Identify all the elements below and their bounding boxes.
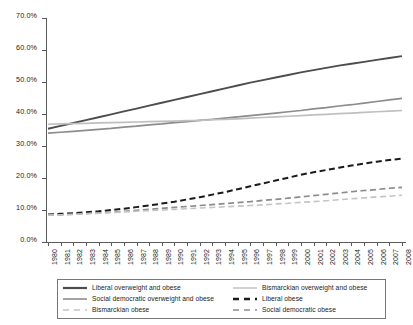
x-tick-label: 2005 <box>367 249 374 265</box>
x-tick-label: 1987 <box>140 249 147 265</box>
y-tick-label: 0.0% <box>20 236 37 244</box>
x-tick-label: 1998 <box>279 249 286 265</box>
legend-label: Social democratic overweight and obese <box>92 295 214 303</box>
legend-item[interactable]: Liberal overweight and obese <box>62 282 232 293</box>
x-tick-label: 1980 <box>51 249 58 265</box>
series-lines <box>46 18 406 243</box>
x-tick-label: 2001 <box>317 249 324 265</box>
x-tick-label: 2006 <box>380 249 387 265</box>
legend-swatch-icon <box>62 295 88 303</box>
legend-label: Social democratic obese <box>262 306 336 314</box>
x-tick-label: 2000 <box>304 249 311 265</box>
legend-item[interactable]: Bismarckian overweight and obese <box>232 282 385 293</box>
y-tick-label: 70.0% <box>16 12 37 20</box>
chart-legend: Liberal overweight and obeseBismarckian … <box>57 279 386 319</box>
x-tick-label: 1992 <box>203 249 210 265</box>
x-tick-label: 1993 <box>215 249 222 265</box>
x-tick-label: 1986 <box>127 249 134 265</box>
x-tick-label: 1996 <box>253 249 260 265</box>
y-tick-label: 50.0% <box>16 76 37 84</box>
legend-label: Liberal obese <box>262 295 303 303</box>
legend-swatch-icon <box>232 306 258 314</box>
legend-label: Bismarckian obese <box>92 306 149 314</box>
x-tick-label: 1983 <box>89 249 96 265</box>
x-tick-label: 2007 <box>392 249 399 265</box>
y-tick-label: 20.0% <box>16 172 37 180</box>
legend-item[interactable]: Social democratic overweight and obese <box>62 293 232 304</box>
plot-area: 0.0%10.0%20.0%30.0%40.0%50.0%60.0%70.0% … <box>46 18 406 243</box>
x-tick-label: 2003 <box>342 249 349 265</box>
legend-label: Bismarckian overweight and obese <box>262 284 367 292</box>
x-tick-label: 1994 <box>228 249 235 265</box>
legend-item[interactable]: Liberal obese <box>232 293 385 304</box>
x-tick-label: 2004 <box>354 249 361 265</box>
legend-label: Liberal overweight and obese <box>92 284 181 292</box>
x-tick-label: 1988 <box>152 249 159 265</box>
legend-swatch-icon <box>232 295 258 303</box>
x-tick-label: 1997 <box>266 249 273 265</box>
legend-grid: Liberal overweight and obeseBismarckian … <box>58 280 385 318</box>
x-tick-label: 2002 <box>329 249 336 265</box>
y-tick-label: 30.0% <box>16 140 37 148</box>
series-line <box>48 158 402 214</box>
x-tick-label: 1995 <box>241 249 248 265</box>
legend-item[interactable]: Bismarckian obese <box>62 305 232 316</box>
x-tick-label: 1982 <box>76 249 83 265</box>
x-tick-label: 2008 <box>405 249 412 265</box>
x-tick-label: 1989 <box>165 249 172 265</box>
x-tick-label: 1999 <box>291 249 298 265</box>
x-tick-label: 1985 <box>114 249 121 265</box>
x-tick-label: 1981 <box>64 249 71 265</box>
x-tick-label: 1984 <box>102 249 109 265</box>
x-tick-label: 1990 <box>177 249 184 265</box>
y-tick-label: 40.0% <box>16 108 37 116</box>
x-tick-label: 1991 <box>190 249 197 265</box>
legend-swatch-icon <box>62 284 88 292</box>
chart-container: 0.0%10.0%20.0%30.0%40.0%50.0%60.0%70.0% … <box>0 0 413 325</box>
y-tick-label: 60.0% <box>16 44 37 52</box>
legend-swatch-icon <box>232 284 258 292</box>
legend-swatch-icon <box>62 306 88 314</box>
legend-item[interactable]: Social democratic obese <box>232 305 385 316</box>
y-tick-label: 10.0% <box>16 204 37 212</box>
